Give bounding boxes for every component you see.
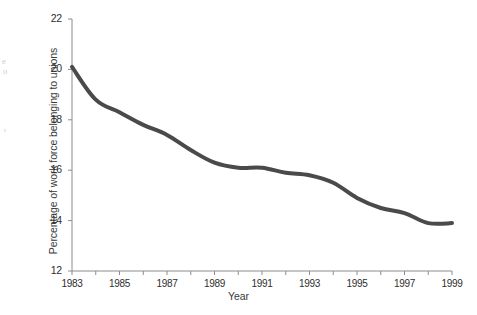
x-tick-label: 1991 xyxy=(242,278,282,289)
x-tick-label: 1993 xyxy=(290,278,330,289)
x-axis-ticks xyxy=(72,271,452,275)
y-tick-label: 16 xyxy=(40,163,62,175)
axes xyxy=(72,19,452,271)
data-series-line xyxy=(72,67,452,224)
y-tick-label: 14 xyxy=(40,214,62,226)
x-tick-label: 1999 xyxy=(432,278,472,289)
y-tick-label: 20 xyxy=(40,62,62,74)
y-tick-label: 22 xyxy=(40,12,62,24)
plot-area xyxy=(0,0,477,315)
y-axis-ticks xyxy=(68,19,72,271)
x-tick-label: 1989 xyxy=(195,278,235,289)
x-tick-label: 1997 xyxy=(385,278,425,289)
x-tick-label: 1995 xyxy=(337,278,377,289)
x-tick-label: 1985 xyxy=(100,278,140,289)
x-tick-label: 1983 xyxy=(52,278,92,289)
y-tick-label: 18 xyxy=(40,113,62,125)
x-tick-label: 1987 xyxy=(147,278,187,289)
y-tick-label: 12 xyxy=(40,264,62,276)
chart-figure: e o r Percentage of work force belonging… xyxy=(0,0,477,315)
